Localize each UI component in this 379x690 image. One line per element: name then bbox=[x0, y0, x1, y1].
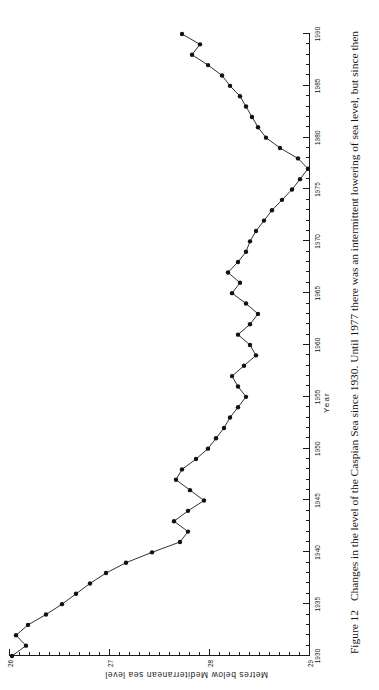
data-point-marker bbox=[254, 229, 258, 233]
data-point-marker bbox=[194, 457, 198, 461]
data-point-marker bbox=[238, 94, 242, 98]
data-point-marker bbox=[190, 53, 194, 57]
x-tick-label: 1935 bbox=[314, 597, 321, 612]
y-tick-label: 28 bbox=[207, 660, 214, 667]
data-point-marker bbox=[222, 426, 226, 430]
data-point-marker bbox=[248, 322, 252, 326]
data-point-marker bbox=[180, 32, 184, 36]
data-point-marker bbox=[26, 623, 30, 627]
x-tick-label: 1945 bbox=[314, 493, 321, 508]
data-point-marker bbox=[88, 581, 92, 585]
data-point-marker bbox=[250, 115, 254, 119]
data-point-marker bbox=[236, 384, 240, 388]
data-point-marker bbox=[244, 250, 248, 254]
data-point-marker bbox=[248, 239, 252, 243]
data-point-marker bbox=[206, 63, 210, 67]
data-point-marker bbox=[244, 395, 248, 399]
data-point-marker bbox=[206, 446, 210, 450]
series-polyline bbox=[12, 34, 308, 656]
data-point-marker bbox=[230, 374, 234, 378]
y-axis-title: Metres below Mediterranean sea level bbox=[105, 670, 268, 680]
data-point-marker bbox=[228, 415, 232, 419]
data-series-line bbox=[10, 34, 310, 656]
data-point-marker bbox=[214, 436, 218, 440]
data-point-marker bbox=[60, 602, 64, 606]
data-point-marker bbox=[198, 42, 202, 46]
x-tick-label: 1940 bbox=[314, 545, 321, 560]
data-point-marker bbox=[290, 187, 294, 191]
data-point-marker bbox=[220, 73, 224, 77]
data-point-marker bbox=[298, 177, 302, 181]
data-point-marker bbox=[150, 550, 154, 554]
data-point-marker bbox=[172, 519, 176, 523]
data-point-marker bbox=[186, 529, 190, 533]
x-tick-label: 1930 bbox=[314, 649, 321, 664]
data-point-marker bbox=[242, 364, 246, 368]
data-point-marker bbox=[262, 218, 266, 222]
data-point-marker bbox=[254, 353, 258, 357]
data-point-marker bbox=[24, 643, 28, 647]
data-point-marker bbox=[10, 654, 14, 658]
x-tick-label: 1980 bbox=[314, 130, 321, 145]
x-tick-label: 1950 bbox=[314, 441, 321, 456]
data-point-marker bbox=[248, 343, 252, 347]
data-point-marker bbox=[264, 135, 268, 139]
data-point-marker bbox=[236, 405, 240, 409]
x-tick-label: 1960 bbox=[314, 338, 321, 353]
data-point-marker bbox=[296, 156, 300, 160]
data-point-marker bbox=[44, 612, 48, 616]
data-point-marker bbox=[202, 498, 206, 502]
data-point-marker bbox=[226, 270, 230, 274]
x-tick-label: 1955 bbox=[314, 390, 321, 405]
x-tick-label: 1975 bbox=[314, 182, 321, 197]
rotated-page-wrapper: 1930193519401945195019551960196519701975… bbox=[0, 0, 379, 690]
x-tick-label: 1965 bbox=[314, 286, 321, 301]
y-tick-label: 27 bbox=[107, 660, 114, 667]
figure-caption: Figure 12Changes in the level of the Cas… bbox=[348, 24, 360, 654]
data-point-marker bbox=[270, 208, 274, 212]
data-point-marker bbox=[238, 281, 242, 285]
data-point-marker bbox=[236, 260, 240, 264]
x-axis-title: Year bbox=[322, 392, 331, 413]
data-point-marker bbox=[256, 312, 260, 316]
data-point-marker bbox=[188, 488, 192, 492]
data-point-marker bbox=[280, 198, 284, 202]
figure-caption-text: Changes in the level of the Caspian Sea … bbox=[348, 31, 360, 601]
data-point-marker bbox=[228, 84, 232, 88]
data-point-marker bbox=[124, 561, 128, 565]
y-tick-label: 29 bbox=[307, 660, 314, 667]
data-point-marker bbox=[178, 540, 182, 544]
data-point-marker bbox=[104, 571, 108, 575]
figure-number: Figure 12 bbox=[348, 610, 360, 654]
y-tick-label: 26 bbox=[7, 660, 14, 667]
data-point-marker bbox=[230, 291, 234, 295]
data-point-marker bbox=[244, 104, 248, 108]
data-point-marker bbox=[14, 633, 18, 637]
data-point-marker bbox=[278, 146, 282, 150]
x-tick-label: 1985 bbox=[314, 79, 321, 94]
data-point-marker bbox=[236, 332, 240, 336]
chart-plot-area: 1930193519401945195019551960196519701975… bbox=[10, 34, 310, 656]
figure-page: 1930193519401945195019551960196519701975… bbox=[0, 0, 379, 690]
x-tick-label: 1990 bbox=[314, 27, 321, 42]
data-point-marker bbox=[256, 125, 260, 129]
data-point-marker bbox=[186, 509, 190, 513]
x-tick-label: 1970 bbox=[314, 234, 321, 249]
data-point-marker bbox=[306, 167, 310, 171]
data-point-marker bbox=[74, 592, 78, 596]
data-point-marker bbox=[174, 478, 178, 482]
data-point-marker bbox=[180, 467, 184, 471]
data-point-marker bbox=[244, 301, 248, 305]
